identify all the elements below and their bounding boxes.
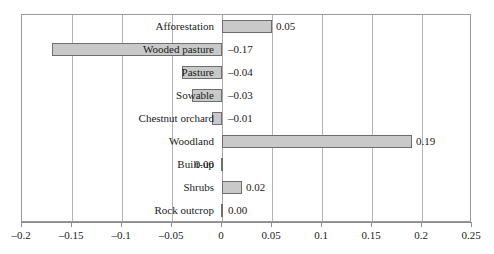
x-tick [421,222,422,227]
bar-row: Wooded pasture–0.17 [22,38,470,61]
bar-row: Built-up0.00 [22,153,470,176]
bar-row: Pasture–0.04 [22,61,470,84]
value-label: 0.05 [276,18,295,35]
bar-row: Rock outcrop0.00 [22,199,470,222]
x-tick [471,222,472,227]
category-label: Sowable [176,87,214,104]
bar [222,20,272,33]
bar [221,204,223,217]
value-label: –0.17 [228,41,253,58]
value-label: –0.04 [228,64,253,81]
value-label: 0.19 [416,133,435,150]
value-label: –0.03 [228,87,253,104]
bar-row: Woodland0.19 [22,130,470,153]
value-label: 0.00 [195,156,214,173]
bar-row: Afforestation0.05 [22,15,470,38]
x-tick-label: –0.2 [11,229,30,241]
bar-row: Sowable–0.03 [22,84,470,107]
category-label: Shrubs [183,179,214,196]
bar-row: Chestnut orchard–0.01 [22,107,470,130]
bar [222,181,242,194]
x-tick-label: 0 [218,229,224,241]
value-label: 0.00 [228,202,247,219]
x-axis: –0.2–0.15–0.1–0.0500.050.10.150.20.25 [21,222,471,254]
category-label: Woodland [169,133,214,150]
x-tick-label: –0.15 [59,229,84,241]
x-tick [321,222,322,227]
value-label: 0.02 [246,179,265,196]
x-axis-line [21,222,471,223]
x-tick [21,222,22,227]
x-tick-label: 0.1 [314,229,328,241]
bar [222,135,412,148]
bar-chart: Afforestation0.05Wooded pasture–0.17Past… [0,0,494,254]
plot-area: Afforestation0.05Wooded pasture–0.17Past… [21,14,471,222]
category-label: Afforestation [156,18,214,35]
bar [221,158,223,171]
category-label: Rock outcrop [154,202,214,219]
x-tick-label: 0.25 [461,229,480,241]
x-tick-label: 0.15 [361,229,380,241]
x-tick [221,222,222,227]
x-tick-label: 0.2 [414,229,428,241]
x-tick [171,222,172,227]
x-tick [271,222,272,227]
x-tick-label: –0.1 [111,229,130,241]
value-label: –0.01 [228,110,253,127]
x-tick-label: 0.05 [261,229,280,241]
category-label: Pasture [182,64,214,81]
x-tick [121,222,122,227]
x-tick [71,222,72,227]
bar-row: Shrubs0.02 [22,176,470,199]
x-tick-label: –0.05 [159,229,184,241]
category-label: Wooded pasture [143,41,214,58]
x-tick [371,222,372,227]
category-label: Chestnut orchard [139,110,214,127]
